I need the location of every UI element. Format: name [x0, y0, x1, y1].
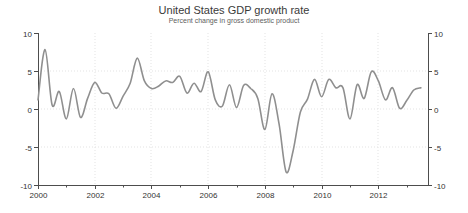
- x-tick-label: 2008: [257, 191, 275, 200]
- y-tick-label-left: -10: [20, 182, 32, 191]
- gdp-chart-card: United States GDP growth rate Percent ch…: [0, 0, 468, 213]
- x-tick-label: 2006: [200, 191, 218, 200]
- axis-ticks: [34, 34, 432, 190]
- axis-tick-labels: 10105500-5-5-10-102000200220042006200820…: [20, 30, 446, 201]
- x-tick-label: 2000: [30, 191, 48, 200]
- x-tick-label: 2012: [370, 191, 388, 200]
- y-tick-label-left: 0: [28, 106, 33, 115]
- y-tick-label-left: 10: [23, 30, 32, 39]
- y-tick-label-right: -5: [434, 144, 442, 153]
- y-tick-label-right: 0: [434, 106, 439, 115]
- x-tick-label: 2010: [314, 191, 332, 200]
- y-tick-label-right: -10: [434, 182, 446, 191]
- y-tick-label-left: -5: [25, 144, 33, 153]
- x-tick-label: 2004: [143, 191, 161, 200]
- gridlines: [38, 33, 428, 185]
- gdp-growth-chart: 10105500-5-5-10-102000200220042006200820…: [0, 0, 468, 213]
- y-tick-label-right: 10: [434, 30, 443, 39]
- y-tick-label-right: 5: [434, 68, 439, 77]
- y-tick-label-left: 5: [28, 68, 33, 77]
- x-tick-label: 2002: [87, 191, 105, 200]
